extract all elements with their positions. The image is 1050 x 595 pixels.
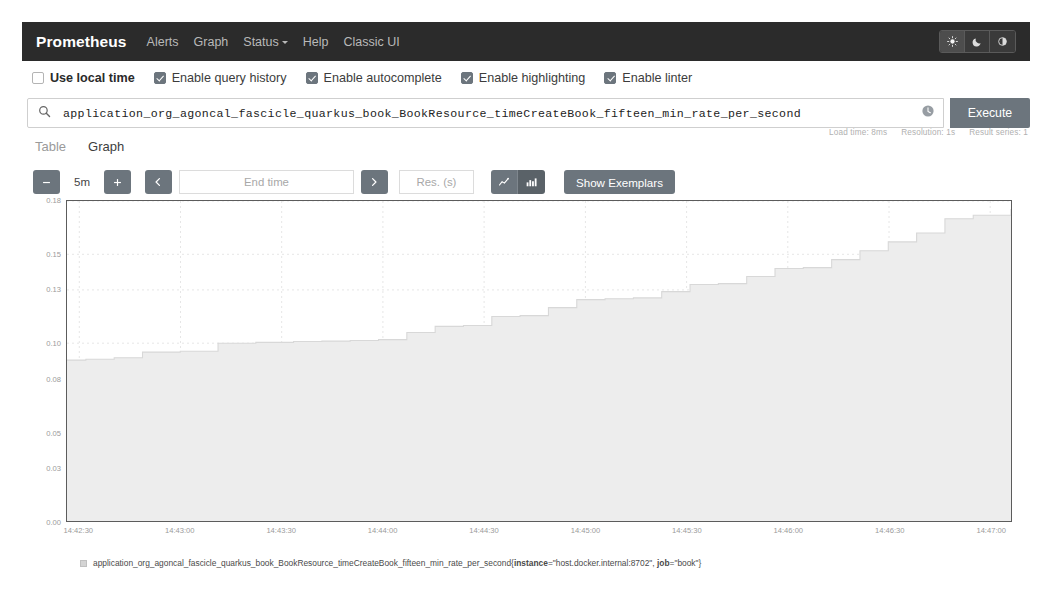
search-icon (38, 104, 51, 122)
x-axis-tick-label: 14:44:30 (469, 526, 499, 535)
x-axis-tick-label: 14:46:30 (875, 526, 905, 535)
nav-link-status-label: Status (243, 35, 278, 49)
legend-instance-key: instance (514, 558, 548, 568)
legend-label: application_org_agoncal_fascicle_quarkus… (93, 558, 701, 568)
x-axis-labels: 14:42:3014:43:0014:43:3014:44:0014:44:30… (66, 524, 1012, 540)
chevron-left-icon (153, 177, 163, 187)
theme-dark-button[interactable] (965, 31, 990, 52)
plot-canvas[interactable] (66, 200, 1012, 522)
nav-link-graph-label: Graph (194, 35, 229, 49)
resolution-input[interactable]: Res. (s) (399, 170, 474, 194)
nav-link-help[interactable]: Help (303, 35, 329, 49)
result-series-text: Result series: 1 (969, 128, 1028, 137)
theme-auto-button[interactable] (990, 31, 1015, 52)
option-use-local-time[interactable]: Use local time (32, 71, 135, 85)
line-chart-button[interactable] (491, 170, 518, 194)
history-clock-icon[interactable] (921, 104, 935, 122)
show-exemplars-button[interactable]: Show Exemplars (564, 170, 675, 194)
increase-range-button[interactable] (104, 170, 131, 194)
y-axis-tick-label: 0.13 (46, 285, 61, 294)
query-meta: Load time: 8ms Resolution: 1s Result ser… (829, 128, 1028, 137)
tab-table[interactable]: Table (35, 139, 66, 157)
tab-graph[interactable]: Graph (88, 139, 124, 157)
chevron-down-icon (282, 41, 288, 44)
legend-instance-value: ="host.docker.internal:8702", (548, 558, 657, 568)
bar-chart-icon (525, 176, 537, 188)
nav-link-classic-ui-label: Classic UI (343, 35, 399, 49)
prometheus-graph-page: Prometheus Alerts Graph Status Help Clas… (0, 0, 1050, 595)
graph-area: 0.000.030.050.080.100.130.150.18 14:42:3… (30, 200, 1012, 530)
legend-job-key: job (657, 558, 670, 568)
enable-autocomplete-checkbox[interactable] (306, 72, 318, 84)
end-time-input[interactable]: End time (179, 170, 354, 194)
plus-icon (112, 177, 123, 188)
enable-highlighting-checkbox[interactable] (461, 72, 473, 84)
enable-linter-label: Enable linter (622, 71, 692, 85)
nav-link-help-label: Help (303, 35, 329, 49)
y-axis-tick-label: 0.05 (46, 428, 61, 437)
query-row: application_org_agoncal_fascicle_quarkus… (27, 98, 1030, 128)
query-input[interactable]: application_org_agoncal_fascicle_quarkus… (63, 107, 909, 120)
previous-time-button[interactable] (145, 170, 172, 194)
enable-linter-checkbox[interactable] (604, 72, 616, 84)
option-enable-highlighting[interactable]: Enable highlighting (461, 71, 585, 85)
next-time-button[interactable] (361, 170, 388, 194)
enable-highlighting-label: Enable highlighting (479, 71, 585, 85)
area-chart-svg (67, 201, 1011, 521)
nav-link-alerts-label: Alerts (147, 35, 179, 49)
legend-close-brace: } (699, 558, 702, 568)
nav-link-alerts[interactable]: Alerts (147, 35, 179, 49)
chart-legend[interactable]: application_org_agoncal_fascicle_quarkus… (80, 558, 701, 568)
enable-query-history-label: Enable query history (172, 71, 287, 85)
legend-job-value: ="book" (670, 558, 699, 568)
navbar: Prometheus Alerts Graph Status Help Clas… (22, 22, 1030, 61)
y-axis-tick-label: 0.18 (46, 196, 61, 205)
y-axis-labels: 0.000.030.050.080.100.130.150.18 (30, 200, 64, 530)
minus-icon (41, 177, 52, 188)
resolution-text: Resolution: 1s (901, 128, 955, 137)
use-local-time-label: Use local time (50, 71, 135, 85)
y-axis-tick-label: 0.15 (46, 249, 61, 258)
brand-logo[interactable]: Prometheus (36, 33, 127, 51)
decrease-range-button[interactable] (33, 170, 60, 194)
y-axis-tick-label: 0.10 (46, 339, 61, 348)
use-local-time-checkbox[interactable] (32, 72, 44, 84)
y-axis-tick-label: 0.03 (46, 464, 61, 473)
x-axis-tick-label: 14:43:30 (266, 526, 296, 535)
y-axis-tick-label: 0.00 (46, 518, 61, 527)
legend-color-swatch (80, 560, 87, 567)
graph-controls: 5m End time Res. (s) (33, 170, 675, 194)
nav-link-classic-ui[interactable]: Classic UI (343, 35, 399, 49)
chart-type-toggle (491, 170, 545, 194)
enable-autocomplete-label: Enable autocomplete (324, 71, 442, 85)
execute-button[interactable]: Execute (950, 98, 1030, 128)
x-axis-tick-label: 14:45:00 (571, 526, 601, 535)
legend-metric-name: application_org_agoncal_fascicle_quarkus… (93, 558, 511, 568)
option-enable-query-history[interactable]: Enable query history (154, 71, 287, 85)
query-options-row: Use local time Enable query history Enab… (32, 71, 692, 85)
sun-icon (947, 36, 958, 47)
x-axis-tick-label: 14:42:30 (64, 526, 94, 535)
option-enable-linter[interactable]: Enable linter (604, 71, 692, 85)
half-circle-icon (997, 36, 1008, 47)
x-axis-tick-label: 14:44:00 (368, 526, 398, 535)
enable-query-history-checkbox[interactable] (154, 72, 166, 84)
nav-link-status[interactable]: Status (243, 35, 287, 49)
x-axis-tick-label: 14:46:00 (774, 526, 804, 535)
x-axis-tick-label: 14:47:00 (976, 526, 1006, 535)
x-axis-tick-label: 14:43:00 (165, 526, 195, 535)
x-axis-tick-label: 14:45:30 (672, 526, 702, 535)
range-value[interactable]: 5m (67, 176, 97, 188)
line-chart-icon (498, 176, 510, 188)
option-enable-autocomplete[interactable]: Enable autocomplete (306, 71, 442, 85)
chevron-right-icon (369, 177, 379, 187)
query-input-wrapper[interactable]: application_org_agoncal_fascicle_quarkus… (27, 98, 944, 128)
y-axis-tick-label: 0.08 (46, 374, 61, 383)
load-time-text: Load time: 8ms (829, 128, 887, 137)
nav-links: Alerts Graph Status Help Classic UI (147, 35, 400, 49)
stacked-chart-button[interactable] (518, 170, 545, 194)
theme-toggle-group (939, 30, 1016, 53)
theme-light-button[interactable] (940, 31, 965, 52)
nav-link-graph[interactable]: Graph (194, 35, 229, 49)
moon-icon (972, 36, 983, 47)
